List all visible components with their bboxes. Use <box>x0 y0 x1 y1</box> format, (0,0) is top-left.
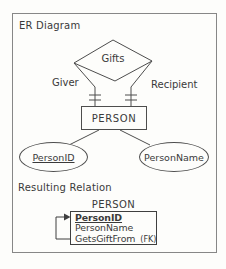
er-diagram-section-title: ER Diagram <box>19 20 80 31</box>
page: ER Diagram Gifts Giver Recipient PERSON … <box>0 0 226 269</box>
attribute-oval-personid: PersonID <box>19 142 88 172</box>
relation-table-title: PERSON <box>70 199 157 210</box>
foreign-key-tag: (FK) <box>140 235 156 244</box>
relation-row-getsgiftfrom-name: GetsGiftFrom <box>75 233 135 244</box>
attribute-personid-label: PersonID <box>32 152 74 163</box>
relationship-label: Gifts <box>83 53 143 64</box>
attribute-personname-label: PersonName <box>144 152 204 163</box>
attribute-oval-personname: PersonName <box>139 142 209 172</box>
role-label-giver: Giver <box>52 77 79 88</box>
entity-person: PERSON <box>81 106 147 130</box>
entity-person-label: PERSON <box>92 113 137 124</box>
role-label-recipient: Recipient <box>151 79 197 90</box>
relation-row-getsgiftfrom: GetsGiftFrom(FK) <box>75 234 156 245</box>
relation-table: PersonID PersonName GetsGiftFrom(FK) <box>70 211 157 245</box>
resulting-relation-section-title: Resulting Relation <box>18 182 112 193</box>
